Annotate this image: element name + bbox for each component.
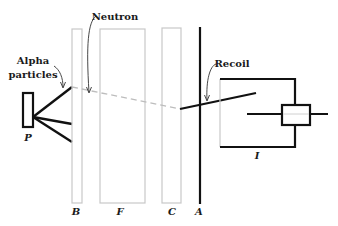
alpha-label-line1: Alpha bbox=[16, 55, 50, 66]
neutron-arrow bbox=[88, 16, 96, 92]
plate-b bbox=[72, 29, 82, 203]
recoil-path bbox=[180, 93, 256, 109]
recoil-label: Recoil bbox=[214, 58, 249, 69]
source-p-label: P bbox=[23, 132, 32, 143]
amplifier-box bbox=[282, 105, 310, 125]
apparatus-diagram: Alpha particles Neutron Recoil P B F C A… bbox=[0, 0, 338, 226]
absorber-a-label: A bbox=[194, 206, 203, 217]
plate-b-label: B bbox=[71, 206, 80, 217]
diagram-canvas: Alpha particles Neutron Recoil P B F C A… bbox=[0, 0, 338, 226]
recoil-arrow bbox=[207, 64, 216, 100]
ionization-i-label: I bbox=[254, 150, 260, 161]
circuit-top-wire bbox=[220, 79, 295, 105]
alpha-rays bbox=[33, 87, 72, 142]
plate-c-label: C bbox=[168, 206, 176, 217]
plate-c bbox=[162, 28, 181, 203]
plate-f bbox=[100, 29, 145, 203]
plate-f-label: F bbox=[115, 206, 124, 217]
neutron-label: Neutron bbox=[92, 11, 139, 22]
circuit-bottom-wire bbox=[220, 125, 295, 147]
source-p-rect bbox=[23, 93, 33, 127]
alpha-label-line2: particles bbox=[8, 69, 57, 80]
